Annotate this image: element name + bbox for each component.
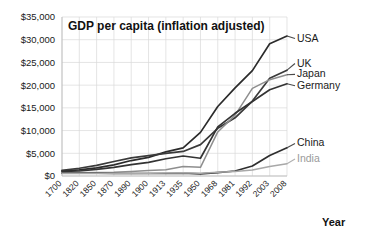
y-axis-tick-label: $10,000 <box>21 125 55 136</box>
y-axis-tick-label: $20,000 <box>21 80 55 91</box>
gdp-per-capita-line-chart: $0$5,000$10,000$15,000$20,000$25,000$30,… <box>0 0 371 246</box>
y-axis-tick-label: $15,000 <box>21 102 55 113</box>
series-label-china: China <box>297 136 325 148</box>
y-axis-tick-label: $25,000 <box>21 57 55 68</box>
series-label-germany: Germany <box>297 79 341 91</box>
y-axis-tick-label: $5,000 <box>26 148 55 159</box>
series-label-india: India <box>297 152 320 164</box>
y-axis-tick-label: $0 <box>44 170 55 181</box>
series-label-japan: Japan <box>297 67 326 79</box>
chart-title: GDP per capita (inflation adjusted) <box>68 19 264 33</box>
x-axis-title: Year <box>322 216 346 228</box>
series-label-usa: USA <box>297 32 319 44</box>
y-axis-tick-label: $30,000 <box>21 34 55 45</box>
y-axis-tick-label: $35,000 <box>21 11 55 22</box>
chart-canvas: $0$5,000$10,000$15,000$20,000$25,000$30,… <box>0 0 371 246</box>
